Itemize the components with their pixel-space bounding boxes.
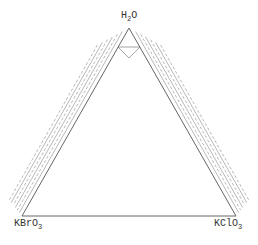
tie-line — [19, 32, 122, 213]
tie-line — [151, 40, 245, 205]
triangle-outline — [22, 28, 236, 216]
tie-line — [17, 34, 117, 210]
tie-line — [146, 37, 243, 208]
ternary-diagram — [0, 0, 258, 245]
apex-triangle — [118, 47, 140, 58]
vertex-label-kclo3: KClO3 — [214, 218, 242, 231]
tie-line — [9, 45, 97, 200]
tie-line — [136, 32, 239, 213]
tie-line — [156, 42, 247, 202]
tie-line — [15, 37, 112, 208]
tie-line — [161, 45, 249, 200]
tie-line — [11, 42, 102, 202]
right-tie-line-band — [136, 32, 249, 213]
left-tie-line-band — [9, 32, 122, 213]
vertex-label-kbro3: KBrO3 — [14, 218, 42, 231]
tie-line — [141, 34, 241, 210]
vertex-label-water: H2O — [121, 10, 137, 23]
tie-line — [13, 40, 107, 205]
